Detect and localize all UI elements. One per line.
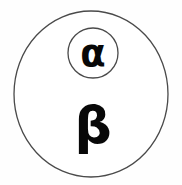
alpha-label: α bbox=[80, 32, 105, 75]
diagram-svg: α β bbox=[0, 0, 182, 185]
nested-set-diagram: α β bbox=[0, 0, 182, 185]
beta-label: β bbox=[74, 95, 111, 155]
